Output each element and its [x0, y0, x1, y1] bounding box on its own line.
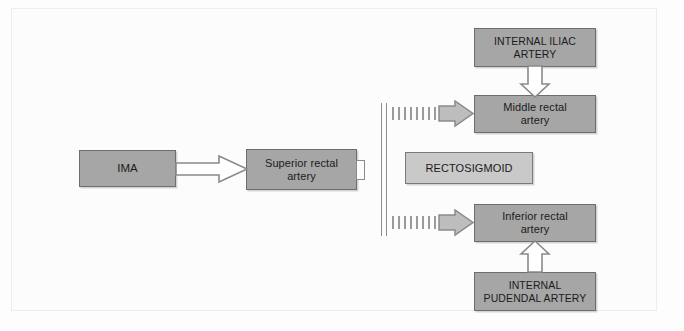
- arrow-iliac-to-middle-rectal-icon: [518, 65, 552, 98]
- node-superior-rectal-artery-label: Superior rectal artery: [261, 157, 342, 183]
- node-inferior-rectal-artery[interactable]: Inferior rectal artery: [474, 204, 596, 242]
- node-internal-pudendal-artery[interactable]: INTERNAL PUDENDAL ARTERY: [474, 272, 596, 311]
- node-ima[interactable]: IMA: [79, 150, 176, 187]
- arrow-pudendal-to-inferior-rectal-icon: [518, 240, 552, 274]
- node-inferior-rectal-artery-line1: Inferior rectal: [502, 210, 568, 222]
- node-internal-iliac-artery[interactable]: INTERNAL ILIAC ARTERY: [474, 28, 596, 67]
- node-middle-rectal-artery-line2: artery: [521, 114, 550, 126]
- node-middle-rectal-artery-label: Middle rectal artery: [499, 101, 571, 127]
- node-superior-rectal-artery-line2: artery: [287, 170, 316, 182]
- rectosigmoid-rail-outer: [381, 103, 382, 236]
- arrow-head-to-middle-rectal-icon: [438, 100, 475, 128]
- superior-rectal-connector-notch: [356, 160, 365, 180]
- arrow-ima-to-superior-rectal-icon: [175, 154, 249, 184]
- rectosigmoid-rail-inner: [386, 103, 387, 236]
- arrow-head-to-inferior-rectal-icon: [438, 209, 475, 237]
- node-middle-rectal-artery[interactable]: Middle rectal artery: [474, 95, 596, 133]
- node-internal-iliac-artery-label: INTERNAL ILIAC ARTERY: [490, 35, 580, 60]
- node-internal-iliac-artery-line1: INTERNAL ILIAC: [494, 35, 576, 47]
- dashed-shaft-to-inferior-rectal: [392, 216, 440, 229]
- node-superior-rectal-artery[interactable]: Superior rectal artery: [246, 149, 357, 190]
- node-inferior-rectal-artery-label: Inferior rectal artery: [498, 210, 572, 236]
- node-rectosigmoid[interactable]: RECTOSIGMOID: [405, 152, 533, 184]
- node-internal-pudendal-artery-line2: PUDENDAL ARTERY: [484, 292, 587, 304]
- node-superior-rectal-artery-line1: Superior rectal: [265, 157, 338, 169]
- node-inferior-rectal-artery-line2: artery: [521, 223, 550, 235]
- diagram-canvas: IMA Superior rectal artery INTERNAL ILIA…: [0, 0, 684, 331]
- node-middle-rectal-artery-line1: Middle rectal: [503, 101, 567, 113]
- node-internal-pudendal-artery-line1: INTERNAL: [509, 279, 562, 291]
- dashed-shaft-to-middle-rectal: [392, 107, 440, 120]
- node-internal-pudendal-artery-label: INTERNAL PUDENDAL ARTERY: [480, 279, 591, 304]
- node-internal-iliac-artery-line2: ARTERY: [514, 48, 557, 60]
- node-rectosigmoid-label: RECTOSIGMOID: [421, 162, 516, 175]
- node-ima-label: IMA: [113, 162, 142, 176]
